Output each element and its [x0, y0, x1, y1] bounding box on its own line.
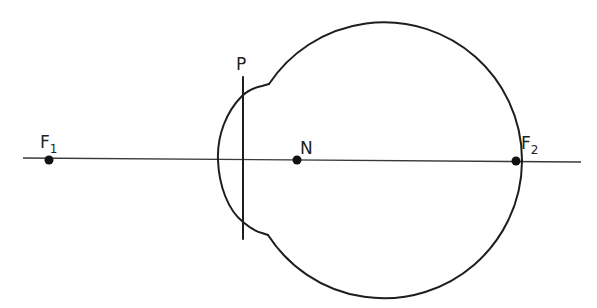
label-f2-subscript: 2: [531, 143, 539, 157]
focal-point-f2-marker: [512, 157, 521, 166]
label-f1: F1: [40, 132, 57, 156]
label-f1-subscript: 1: [50, 142, 58, 156]
optical-axis: [23, 158, 581, 162]
focal-point-f1-marker: [45, 156, 54, 165]
label-f2-main: F: [521, 133, 531, 153]
label-f1-main: F: [40, 132, 50, 152]
label-n: N: [300, 138, 313, 158]
label-f2: F2: [521, 133, 538, 157]
label-p: P: [236, 54, 246, 74]
reduced-eye-diagram: F1 P N F2: [0, 0, 597, 308]
